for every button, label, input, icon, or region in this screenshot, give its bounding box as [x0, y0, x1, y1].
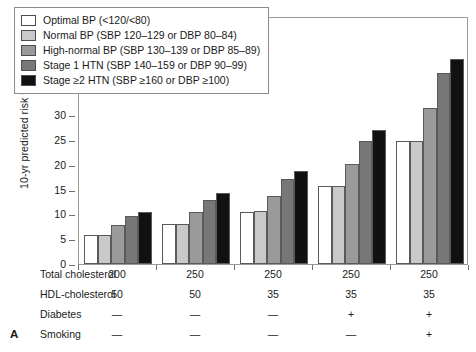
y-tick-mark — [69, 141, 75, 142]
y-tick-label: 5 — [60, 233, 66, 245]
bar — [450, 59, 464, 264]
y-tick-mark — [69, 265, 75, 266]
table-cell: — — [87, 328, 147, 340]
bar — [176, 224, 190, 264]
y-tick-label: 10 — [54, 208, 66, 220]
legend-item: Normal BP (SBP 120–129 or DBP 80–84) — [21, 28, 260, 43]
table-cell: 35 — [321, 288, 381, 300]
bar-group — [313, 18, 391, 264]
y-tick-mark — [69, 240, 75, 241]
parameters-table: Total cholesterol200250250250250HDL-chol… — [0, 268, 476, 352]
bar-group — [391, 18, 469, 264]
legend-item: Optimal BP (<120/<80) — [21, 13, 260, 28]
bar — [162, 224, 176, 264]
legend-label: High-normal BP (SBP 130–139 or DBP 85–89… — [43, 45, 260, 56]
bar — [294, 171, 308, 264]
table-cell: — — [243, 308, 303, 320]
bar — [138, 212, 152, 264]
table-cell: 50 — [165, 288, 225, 300]
legend-label: Stage ≥2 HTN (SBP ≥160 or DBP ≥100) — [43, 75, 229, 86]
table-cell: + — [399, 308, 459, 320]
chart-legend: Optimal BP (<120/<80)Normal BP (SBP 120–… — [14, 7, 269, 94]
y-tick-label: 15 — [54, 184, 66, 196]
bar — [111, 225, 125, 264]
table-cell: — — [165, 328, 225, 340]
y-tick-mark — [69, 116, 75, 117]
y-tick-label: 30 — [54, 109, 66, 121]
bar — [345, 164, 359, 264]
table-cell: 250 — [321, 268, 381, 280]
table-row: Total cholesterol200250250250250 — [0, 268, 476, 288]
legend-item: High-normal BP (SBP 130–139 or DBP 85–89… — [21, 43, 260, 58]
bar — [203, 200, 217, 264]
y-tick-mark — [69, 166, 75, 167]
bar — [318, 186, 332, 264]
legend-item: Stage 1 HTN (SBP 140–159 or DBP 90–99) — [21, 58, 260, 73]
table-row: HDL-cholesterol5050353535 — [0, 288, 476, 308]
legend-item: Stage ≥2 HTN (SBP ≥160 or DBP ≥100) — [21, 73, 260, 88]
legend-swatch — [21, 60, 36, 71]
table-cell: 250 — [165, 268, 225, 280]
bar — [189, 212, 203, 264]
bar — [437, 73, 451, 264]
legend-swatch — [21, 75, 36, 86]
legend-swatch — [21, 45, 36, 56]
legend-label: Optimal BP (<120/<80) — [43, 15, 150, 26]
panel-letter: A — [10, 328, 18, 340]
bar — [410, 141, 424, 265]
bar — [372, 130, 386, 264]
bar — [254, 211, 268, 264]
table-cell: 35 — [399, 288, 459, 300]
table-cell: 200 — [87, 268, 147, 280]
y-tick-mark — [69, 215, 75, 216]
bar — [423, 108, 437, 264]
table-cell: — — [243, 328, 303, 340]
legend-label: Stage 1 HTN (SBP 140–159 or DBP 90–99) — [43, 60, 247, 71]
table-cell: — — [321, 328, 381, 340]
table-cell: 250 — [243, 268, 303, 280]
y-tick-mark — [69, 191, 75, 192]
legend-swatch — [21, 15, 36, 26]
legend-swatch — [21, 30, 36, 41]
table-row-label: Smoking — [40, 328, 81, 340]
y-tick-label: 20 — [54, 159, 66, 171]
figure-panel-a: 10-yr predicted risk for IHD (%) 0510152… — [0, 0, 476, 352]
table-cell: + — [321, 308, 381, 320]
table-row: Diabetes———++ — [0, 308, 476, 328]
bar — [267, 196, 281, 264]
bar — [216, 193, 230, 264]
legend-label: Normal BP (SBP 120–129 or DBP 80–84) — [43, 30, 237, 41]
table-cell: — — [87, 308, 147, 320]
bar — [84, 235, 98, 264]
bar — [98, 235, 112, 264]
table-cell: 50 — [87, 288, 147, 300]
y-tick-label: 25 — [54, 134, 66, 146]
bar — [396, 141, 410, 265]
table-cell: 250 — [399, 268, 459, 280]
table-cell: 35 — [243, 288, 303, 300]
bar — [240, 212, 254, 264]
bar — [125, 216, 139, 264]
bar — [359, 141, 373, 265]
table-row-label: Diabetes — [40, 308, 81, 320]
table-cell: — — [165, 308, 225, 320]
bar — [281, 179, 295, 264]
table-cell: + — [399, 328, 459, 340]
bar — [332, 186, 346, 264]
table-row: Smoking————+ — [0, 328, 476, 348]
